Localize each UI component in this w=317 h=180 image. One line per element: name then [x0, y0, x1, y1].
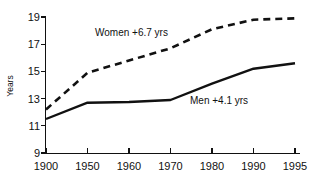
x-tick-label-1900: 1900 [34, 160, 58, 172]
chart-canvas: Years 19 17 15 13 11 9 1900 1950 1960 19… [0, 0, 317, 180]
series-line-men [46, 63, 295, 119]
y-axis-title: Years [5, 75, 15, 96]
x-tick-label-1960: 1960 [117, 160, 141, 172]
x-tick-label-1970: 1970 [158, 160, 182, 172]
men-annotation-label: Men +4.1 yrs [190, 95, 248, 106]
x-tick-label-1950: 1950 [75, 160, 99, 172]
x-tick-label-1990: 1990 [241, 160, 265, 172]
x-tick-label-1995: 1995 [283, 160, 307, 172]
women-annotation-label: Women +6.7 yrs [95, 27, 168, 38]
y-tick-label-17: 17 [28, 38, 40, 50]
y-tick-label-13: 13 [28, 93, 40, 105]
y-tick-label-9: 9 [34, 147, 40, 159]
x-tick-label-1980: 1980 [200, 160, 224, 172]
y-tick-label-11: 11 [29, 120, 40, 132]
series-line-women [46, 18, 295, 109]
y-tick-label-19: 19 [28, 11, 40, 23]
y-tick-label-15: 15 [28, 65, 40, 77]
life-expectancy-line-chart: Years 19 17 15 13 11 9 1900 1950 1960 19… [0, 0, 317, 180]
